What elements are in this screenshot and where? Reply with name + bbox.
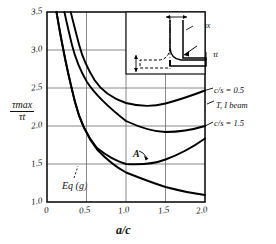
leader-beam [207,101,214,104]
inset-frame [126,12,205,74]
figure-container: τmax τt a/c 3.5 3.0 2.5 2.0 1.5 1.0 0 0.… [0,0,276,244]
plot-svg [0,0,276,244]
leader-cs-05 [205,88,213,91]
leader-eq-g [74,166,78,178]
inset-diagram [126,12,206,74]
leader-a-tick [139,151,143,153]
leader-cs-15 [205,122,213,126]
